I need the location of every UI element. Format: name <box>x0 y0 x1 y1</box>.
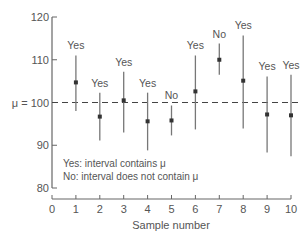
contains-mu-label: Yes <box>67 39 84 51</box>
interval-sample-1: Yes <box>67 39 84 111</box>
sample-mean-point <box>217 58 221 62</box>
x-tick-label: 7 <box>216 203 222 215</box>
y-tick-label: 80 <box>37 182 49 194</box>
x-tick-label: 6 <box>192 203 198 215</box>
interval-sample-10: Yes <box>282 59 299 157</box>
x-tick-label: 4 <box>145 203 151 215</box>
contains-mu-label: No <box>165 89 179 101</box>
legend-entry: Yes: interval contains μ <box>63 158 166 169</box>
intervals: YesYesYesYesNoYesNoYesYesYes <box>67 19 299 156</box>
interval-sample-6: Yes <box>187 39 204 129</box>
x-tick-label: 0 <box>49 203 55 215</box>
x-axis: 012345678910 <box>49 195 297 215</box>
sample-mean-point <box>241 79 245 83</box>
x-axis-label: Sample number <box>132 219 210 231</box>
contains-mu-label: Yes <box>139 77 156 89</box>
x-tick-label: 5 <box>168 203 174 215</box>
contains-mu-label: Yes <box>259 60 276 72</box>
interval-sample-8: Yes <box>235 19 252 128</box>
interval-sample-4: Yes <box>139 77 156 151</box>
sample-mean-point <box>122 98 126 102</box>
sample-mean-point <box>98 115 102 119</box>
sample-mean-point <box>170 118 174 122</box>
sample-mean-point <box>289 113 293 117</box>
sample-mean-point <box>146 119 150 123</box>
y-tick-label: 110 <box>31 54 49 66</box>
contains-mu-label: Yes <box>91 77 108 89</box>
x-tick-label: 3 <box>121 203 127 215</box>
mu-reference-line: μ = 100 <box>12 97 299 109</box>
x-tick-label: 1 <box>73 203 79 215</box>
interval-sample-3: Yes <box>115 56 132 133</box>
contains-mu-label: Yes <box>187 39 204 51</box>
sample-mean-point <box>193 89 197 93</box>
sample-mean-point <box>265 112 269 116</box>
sample-mean-point <box>74 80 78 84</box>
y-tick-label: 120 <box>31 11 49 23</box>
mu-label: μ = 100 <box>12 97 49 109</box>
contains-mu-label: No <box>213 28 227 40</box>
contains-mu-label: Yes <box>282 59 299 71</box>
interval-sample-2: Yes <box>91 77 108 141</box>
interval-sample-9: Yes <box>259 60 276 152</box>
x-tick-label: 2 <box>97 203 103 215</box>
y-tick-label: 90 <box>37 139 49 151</box>
confidence-interval-chart: 8090110120 012345678910 μ = 100 YesYesYe… <box>0 0 308 241</box>
legend-entry: No: interval does not contain μ <box>63 171 199 182</box>
interval-sample-7: No <box>213 28 227 75</box>
contains-mu-label: Yes <box>235 19 252 31</box>
x-tick-label: 8 <box>240 203 246 215</box>
interval-sample-5: No <box>165 89 179 135</box>
x-tick-label: 9 <box>264 203 270 215</box>
x-tick-label: 10 <box>285 203 297 215</box>
contains-mu-label: Yes <box>115 56 132 68</box>
legend: Yes: interval contains μNo: interval doe… <box>63 158 199 182</box>
